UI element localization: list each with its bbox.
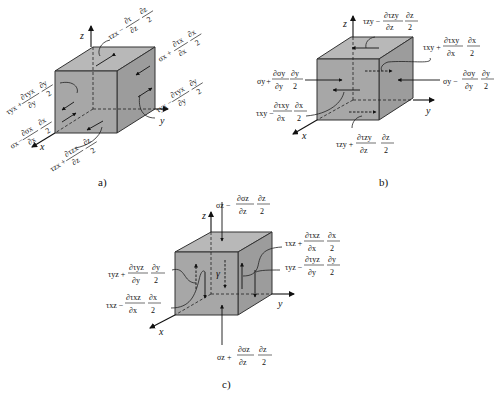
svg-text:2: 2: [89, 146, 97, 156]
svg-text:∂y: ∂y: [465, 82, 473, 91]
svg-text:σy−: σy−: [443, 77, 458, 86]
axis-label-z: z: [79, 30, 84, 41]
svg-text:∂σz: ∂σz: [238, 345, 250, 354]
svg-text:τzx−: τzx−: [106, 25, 126, 42]
label-b-txy-minus: τxy− ∂τxy ∂x ∂x 2: [256, 101, 307, 123]
cube-c: [175, 232, 272, 315]
cube-b: [317, 37, 413, 120]
svg-text:∂x: ∂x: [308, 244, 316, 253]
svg-text:∂x: ∂x: [447, 49, 455, 58]
svg-text:2: 2: [262, 358, 266, 367]
label-b-tzy-plus: τzy+ ∂τzy ∂z ∂z 2: [336, 133, 394, 155]
axis-label-x: x: [301, 130, 307, 141]
svg-text:2: 2: [297, 114, 301, 123]
svg-text:∂τxy: ∂τxy: [274, 101, 289, 110]
svg-text:2: 2: [151, 306, 155, 315]
label-c-sz-plus: σz+ ∂σz ∂z ∂z 2: [217, 345, 272, 367]
svg-text:∂τxy: ∂τxy: [444, 36, 459, 45]
svg-text:σx+: σx+: [156, 48, 174, 64]
svg-text:τxz+: τxz+: [285, 239, 303, 248]
svg-text:∂y: ∂y: [328, 255, 336, 264]
caption-c: c): [222, 378, 231, 391]
svg-text:∂z: ∂z: [360, 146, 368, 155]
svg-text:2: 2: [384, 146, 388, 155]
panel-a: z y x τzx− ∂τ ∂z ∂z 2 σx+: [2, 2, 208, 189]
svg-text:∂x: ∂x: [468, 36, 476, 45]
label-b-sy-plus: σy+ ∂σy ∂y ∂y 2: [257, 69, 303, 91]
axis-label-y: y: [159, 115, 165, 126]
axis-label-z: z: [342, 18, 347, 29]
svg-text:τxy+: τxy+: [423, 43, 441, 52]
panel-b: z y x τzy− ∂τzy ∂z ∂z 2 τxy+: [256, 11, 494, 189]
svg-text:2: 2: [470, 49, 474, 58]
svg-text:∂σz: ∂σz: [237, 194, 249, 203]
svg-text:σy+: σy+: [257, 77, 271, 86]
svg-text:2: 2: [330, 244, 334, 253]
svg-text:τxy−: τxy−: [256, 109, 274, 118]
svg-text:τzy−: τzy−: [363, 17, 381, 26]
caption-a: a): [98, 176, 107, 189]
svg-text:τxz−: τxz−: [106, 301, 124, 310]
svg-text:∂z: ∂z: [386, 23, 394, 32]
panel-c: z y x γ σz− ∂σz ∂z ∂z 2: [106, 194, 340, 391]
svg-text:2: 2: [195, 87, 203, 97]
svg-text:∂x: ∂x: [277, 114, 285, 123]
label-b-sy-minus: σy− ∂σy ∂y ∂y 2: [443, 69, 494, 91]
svg-text:∂z: ∂z: [258, 194, 266, 203]
label-c-txz-minus: τxz− ∂τxz ∂x ∂x 2: [106, 293, 161, 315]
label-b-tzy-minus: τzy− ∂τzy ∂z ∂z 2: [363, 11, 418, 32]
svg-text:τyx+: τyx+: [4, 99, 24, 116]
svg-text:2: 2: [260, 207, 264, 216]
svg-text:τzx+: τzx+: [48, 157, 68, 174]
svg-text:∂z: ∂z: [406, 11, 414, 20]
label-c-tyz-plus: τyz+ ∂τyz ∂y ∂y 2: [108, 263, 165, 285]
svg-text:∂σy: ∂σy: [463, 69, 475, 78]
svg-text:2: 2: [293, 82, 297, 91]
label-a-sx-minus: σx− ∂σx ∂x ∂x 2: [6, 113, 57, 155]
svg-text:2: 2: [193, 38, 201, 48]
axis-label-x: x: [39, 141, 45, 152]
svg-text:2: 2: [330, 268, 334, 277]
svg-text:2: 2: [154, 276, 158, 285]
svg-text:∂z: ∂z: [259, 345, 267, 354]
svg-text:∂y: ∂y: [132, 276, 140, 285]
label-c-txz-plus: τxz+ ∂τxz ∂x ∂x 2: [285, 231, 340, 253]
svg-text:τyx−: τyx−: [154, 97, 174, 114]
label-b-txy-plus: τxy+ ∂τxy ∂x ∂x 2: [423, 36, 480, 58]
svg-text:σx−: σx−: [8, 135, 25, 150]
label-c-tyz-minus: τyz− ∂τyz ∂y ∂y 2: [285, 255, 340, 277]
svg-text:2: 2: [408, 23, 412, 32]
svg-text:∂z: ∂z: [382, 133, 390, 142]
svg-text:∂z: ∂z: [239, 358, 247, 367]
svg-text:σz+: σz+: [217, 353, 232, 362]
svg-text:∂x: ∂x: [328, 231, 336, 240]
axis-label-z: z: [201, 210, 206, 221]
svg-text:τzy+: τzy+: [336, 140, 354, 149]
svg-text:∂x: ∂x: [129, 306, 137, 315]
label-a-sx-plus: σx+ ∂τx ∂x ∂x 2: [154, 25, 207, 68]
svg-text:∂y: ∂y: [482, 69, 490, 78]
axis-label-x: x: [158, 326, 164, 337]
svg-text:∂y: ∂y: [291, 69, 299, 78]
svg-text:∂σy: ∂σy: [273, 69, 285, 78]
svg-text:∂y: ∂y: [275, 82, 283, 91]
svg-text:∂z: ∂z: [239, 207, 247, 216]
svg-text:∂τzy: ∂τzy: [357, 133, 372, 142]
caption-b: b): [379, 176, 389, 189]
label-a-tyx-minus: τyx− ∂τyx ∂y ∂y 2: [152, 74, 208, 120]
svg-text:2: 2: [145, 15, 153, 25]
svg-text:∂y: ∂y: [308, 268, 316, 277]
axis-label-y: y: [425, 105, 431, 116]
svg-text:∂τxz: ∂τxz: [126, 293, 141, 302]
svg-text:∂τyz: ∂τyz: [129, 263, 144, 272]
svg-text:σz−: σz−: [216, 201, 231, 210]
svg-text:∂x: ∂x: [295, 101, 303, 110]
svg-text:∂x: ∂x: [149, 293, 157, 302]
label-c-sz-minus: σz− ∂σz ∂z ∂z 2: [216, 194, 270, 216]
label-a-tzx-minus: τzx− ∂τ ∂z ∂z 2: [104, 2, 159, 47]
svg-text:∂τzy: ∂τzy: [384, 11, 399, 20]
svg-text:2: 2: [45, 89, 53, 99]
label-a-tyx-plus: τyx+ ∂τyx ∂y ∂y 2: [2, 76, 58, 122]
svg-text:τyz−: τyz−: [285, 263, 303, 272]
axis-label-y: y: [277, 298, 283, 309]
